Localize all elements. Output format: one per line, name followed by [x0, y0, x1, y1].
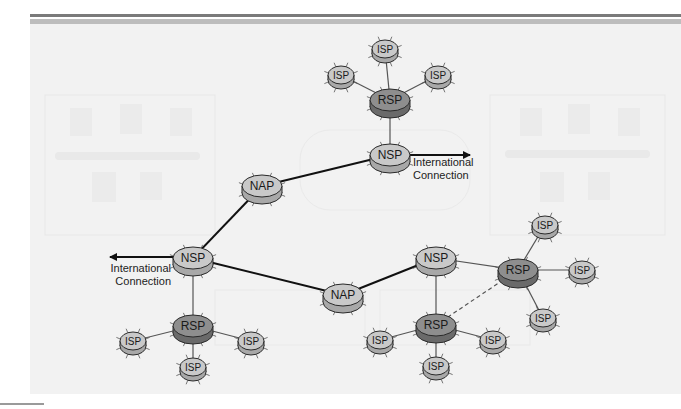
node-isp-isp-top-2: ISP [324, 63, 357, 93]
node-label: ISP [243, 336, 259, 347]
ghost-backbone-right [505, 150, 650, 158]
ghost-computer-icon [170, 108, 192, 136]
node-isp-isp-bl-3: ISP [176, 355, 209, 385]
ghost-computer-icon [140, 172, 162, 200]
node-isp-isp-top-1: ISP [368, 37, 401, 67]
node-label: ISP [125, 336, 141, 347]
node-isp-isp-br-2: ISP [476, 328, 509, 358]
ghost-computer-icon [70, 108, 92, 136]
node-label: RSP [506, 263, 531, 277]
node-isp-isp-r-2: ISP [565, 258, 598, 288]
node-nsp-nsp-top: NSP [367, 142, 413, 175]
node-label: NAP [331, 288, 356, 302]
node-label: ISP [377, 44, 393, 55]
node-label: ISP [372, 335, 388, 346]
node-label: RSP [424, 318, 449, 332]
node-label: ISP [485, 335, 501, 346]
ghost-computer-icon [520, 108, 542, 136]
node-isp-isp-br-1: ISP [363, 328, 396, 358]
node-label: NSP [378, 148, 403, 162]
node-nap-nap-center: NAP [320, 282, 366, 315]
node-label: ISP [535, 313, 551, 324]
node-isp-isp-top-3: ISP [421, 63, 454, 93]
node-label: ISP [428, 361, 444, 372]
ghost-computer-icon [120, 104, 142, 134]
ghost-backbone-left [55, 152, 200, 160]
node-nsp-nsp-right: NSP [413, 245, 459, 278]
node-nsp-nsp-left: NSP [170, 245, 216, 278]
node-label: NSP [424, 251, 449, 265]
node-nap-nap-left: NAP [239, 173, 285, 206]
node-isp-isp-r-3: ISP [526, 306, 559, 336]
international-connection-label: InternationalConnection [413, 156, 474, 181]
node-isp-isp-br-3: ISP [419, 354, 452, 384]
node-label: ISP [537, 220, 553, 231]
node-label: NSP [181, 251, 206, 265]
node-rsp-rsp-right: RSP [495, 257, 541, 290]
node-label: ISP [333, 70, 349, 81]
ghost-computer-icon [568, 104, 590, 134]
ghost-computer-icon [618, 108, 640, 136]
node-isp-isp-bl-1: ISP [116, 329, 149, 359]
node-label: ISP [430, 70, 446, 81]
node-rsp-rsp-br: RSP [413, 312, 459, 345]
ghost-lan-box-bottom-right [380, 290, 530, 345]
node-isp-isp-bl-2: ISP [234, 329, 267, 359]
node-label: RSP [181, 319, 206, 333]
node-label: ISP [574, 265, 590, 276]
internet-hierarchy-diagram: InternationalConnectionInternationalConn… [0, 0, 681, 409]
diagram-canvas: InternationalConnectionInternationalConn… [0, 0, 681, 409]
node-rsp-rsp-bl: RSP [170, 313, 216, 346]
link-nsp_left-nap_center [193, 258, 343, 295]
international-connection-label: InternationalConnection [110, 262, 171, 287]
node-label: NAP [250, 179, 275, 193]
node-isp-isp-r-1: ISP [528, 213, 561, 243]
ghost-server-icon [92, 172, 116, 202]
node-label: RSP [378, 93, 403, 107]
ghost-computer-icon [588, 172, 610, 200]
ghost-server-icon [540, 172, 564, 202]
node-label: ISP [185, 362, 201, 373]
